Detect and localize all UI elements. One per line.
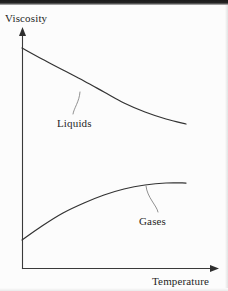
y-axis-title: Viscosity <box>5 12 47 24</box>
series-label-liquids: Liquids <box>57 117 92 129</box>
series-curve-liquids <box>22 48 186 124</box>
leader-line-liquids <box>73 92 80 114</box>
x-axis-arrowhead-icon <box>210 265 219 272</box>
series-curve-gases <box>22 183 186 240</box>
figure-container: Viscosity Temperature Liquids Gases <box>0 0 228 291</box>
leader-line-gases <box>146 186 158 212</box>
chart-plot-area <box>0 0 228 291</box>
y-axis-arrowhead-icon <box>19 27 26 36</box>
series-label-gases: Gases <box>139 215 166 227</box>
x-axis-title: Temperature <box>152 275 209 287</box>
